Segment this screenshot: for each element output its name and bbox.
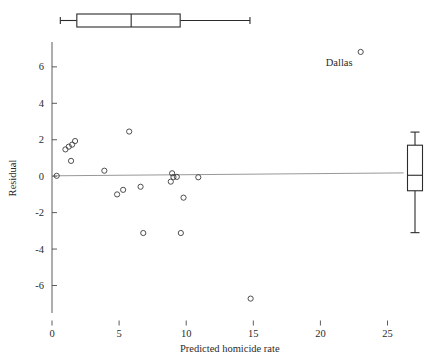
y-tick-label: 2 [39,134,44,145]
scatter-point [178,230,183,235]
x-tick-label: 15 [248,328,259,339]
x-tick-label: 0 [49,328,54,339]
x-tick-label: 5 [116,328,121,339]
scatter-point [181,195,186,200]
y-tick-label: 6 [39,61,44,72]
y-tick-label: -4 [35,244,44,255]
y-tick-label: -2 [35,207,44,218]
x-axis-title: Predicted homicide rate [180,343,280,354]
x-tick-label: 10 [181,328,192,339]
top-boxplot [60,14,250,27]
y-tick-label: 4 [39,98,45,109]
residual-plot-figure: -6-4-202460510152025Predicted homicide r… [0,0,434,358]
right-boxplot-box [408,145,423,191]
y-axis-title-group: Residual [7,160,18,197]
scatter-point [121,187,126,192]
x-tick-label: 20 [315,328,326,339]
scatter-point [102,168,107,173]
scatter-point [141,230,146,235]
scatter-point [114,192,119,197]
y-axis-title: Residual [7,160,18,197]
point-annotation-dallas: Dallas [326,57,353,68]
scatter-point [248,296,253,301]
top-boxplot-box [77,14,180,27]
scatter-point [127,129,132,134]
scatter-point [358,49,363,54]
scatter-point [138,184,143,189]
scatter-point [68,158,73,163]
y-tick-label: -6 [35,280,44,291]
scatter-point [63,147,68,152]
scatter-point [72,138,77,143]
right-boxplot [408,132,423,233]
chart-canvas: -6-4-202460510152025Predicted homicide r… [0,0,434,358]
y-tick-label: 0 [39,171,44,182]
x-axis-ticks: 0510152025 [49,321,392,339]
scatter-point [196,175,201,180]
x-tick-label: 25 [382,328,393,339]
